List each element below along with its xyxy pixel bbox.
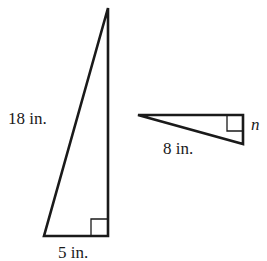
large-triangle (44, 8, 108, 236)
large-hypotenuse-label: 18 in. (8, 109, 47, 128)
large-right-angle-marker (91, 219, 108, 236)
large-triangle-shape (44, 8, 108, 236)
diagram-canvas: 18 in. 5 in. 8 in. n (0, 0, 267, 261)
small-right-angle-marker (227, 115, 243, 131)
small-hypotenuse-label: 8 in. (163, 139, 193, 158)
small-side-label-n: n (251, 115, 260, 134)
large-base-label: 5 in. (58, 243, 88, 261)
